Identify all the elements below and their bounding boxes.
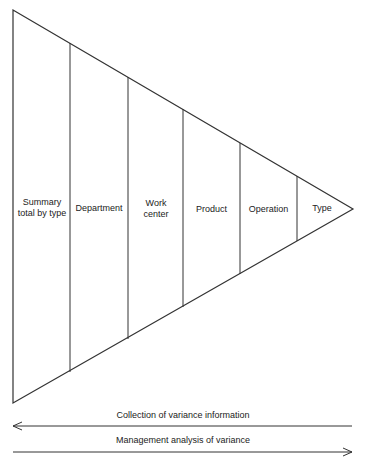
segment-label-summary: Summary total by type <box>14 197 70 219</box>
segment-label-department: Department <box>70 203 128 214</box>
segment-label-type: Type <box>297 203 347 214</box>
arrow-label-collection: Collection of variance information <box>0 410 366 420</box>
arrow-label-analysis: Management analysis of variance <box>0 435 366 445</box>
segment-label-product: Product <box>183 204 240 215</box>
variance-funnel-diagram <box>0 0 366 466</box>
segment-label-work-center: Work center <box>140 198 172 220</box>
segment-label-operation: Operation <box>240 204 297 215</box>
